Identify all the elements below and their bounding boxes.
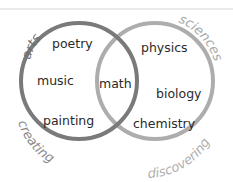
item-chemistry: chemistry <box>133 116 196 131</box>
item-physics: physics <box>141 40 188 55</box>
discovering-label: discovering <box>147 135 213 181</box>
item-painting: painting <box>43 113 94 128</box>
item-poetry: poetry <box>52 36 93 51</box>
item-math: math <box>99 76 132 91</box>
item-biology: biology <box>156 86 202 101</box>
item-music: music <box>37 73 74 88</box>
venn-diagram: arts sciences creating discovering poetr… <box>0 0 233 182</box>
sciences-label: sciences <box>177 11 226 63</box>
